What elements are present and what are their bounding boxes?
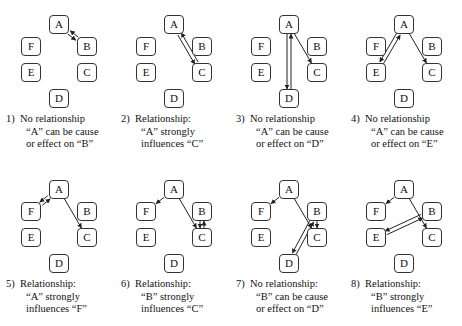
node-c: C	[192, 63, 212, 82]
panel-caption: 1)No relationship“A” can be causeor effe…	[6, 113, 121, 151]
node-a: A	[49, 15, 69, 34]
node-f: F	[251, 202, 271, 221]
diagram-panel-6: ABCDEF6)Relationship:“B” stronglyinfluen…	[115, 165, 230, 325]
node-a: A	[394, 15, 414, 34]
node-c: C	[307, 228, 327, 247]
node-d: D	[164, 89, 184, 108]
node-f: F	[21, 37, 41, 56]
node-a: A	[49, 180, 69, 199]
node-e: E	[136, 228, 156, 247]
node-d: D	[279, 254, 299, 273]
caption-title: Relationship:	[365, 278, 421, 289]
node-d: D	[394, 89, 414, 108]
arrow-a-f	[40, 196, 48, 202]
node-e: E	[366, 63, 386, 82]
node-e: E	[251, 228, 271, 247]
arrow-e-b	[387, 218, 423, 235]
node-d: D	[164, 254, 184, 273]
node-e: E	[136, 63, 156, 82]
diagram-panel-3: ABCDEF3)No relationship“A” can be causeo…	[230, 0, 345, 160]
caption-number: 1)	[6, 113, 20, 126]
diagram-panel-4: ABCDEF4)No relationship“A” can be causeo…	[345, 0, 460, 160]
node-f: F	[136, 37, 156, 56]
node-c: C	[307, 63, 327, 82]
panel-caption: 2)Relationship:“A” stronglyinfluences “C…	[121, 113, 236, 151]
node-e: E	[366, 228, 386, 247]
node-b: B	[192, 202, 212, 221]
arrow-b-e	[385, 214, 421, 231]
arrow-a-f	[271, 197, 279, 203]
node-b: B	[77, 202, 97, 221]
node-c: C	[77, 228, 97, 247]
caption-line: “A” strongly	[121, 126, 236, 139]
panel-caption: 5)Relationship:“A” stronglyinfluences “F…	[6, 278, 121, 316]
panel-caption: 6)Relationship:“B” stronglyinfluences “C…	[121, 278, 236, 316]
node-f: F	[366, 37, 386, 56]
node-f: F	[21, 202, 41, 221]
node-c: C	[422, 63, 442, 82]
caption-line: “A” can be cause	[6, 126, 121, 139]
caption-title: No relationship	[20, 113, 85, 124]
caption-title: No relationship	[365, 113, 430, 124]
caption-line: influences “E”	[351, 303, 462, 316]
caption-line: influences “C”	[121, 303, 236, 316]
caption-title: Relationship:	[20, 278, 76, 289]
caption-line: or effect on “E”	[351, 138, 462, 151]
node-c: C	[422, 228, 442, 247]
node-f: F	[251, 37, 271, 56]
diagram-panel-5: ABCDEF5)Relationship:“A” stronglyinfluen…	[0, 165, 115, 325]
node-a: A	[394, 180, 414, 199]
node-b: B	[422, 37, 442, 56]
arrow-a-f	[156, 197, 164, 203]
arrow-f-a	[42, 199, 50, 205]
caption-number: 4)	[351, 113, 365, 126]
diagram-panel-8: ABCDEF8)Relationship:“B” stronglyinfluen…	[345, 165, 460, 325]
arrow-a-f	[386, 197, 394, 203]
node-d: D	[394, 254, 414, 273]
node-f: F	[366, 202, 386, 221]
caption-line: or effect on “D”	[236, 303, 351, 316]
caption-title: Relationship:	[135, 278, 191, 289]
node-a: A	[164, 15, 184, 34]
node-e: E	[21, 63, 41, 82]
caption-line: “B” strongly	[351, 291, 462, 304]
caption-number: 5)	[6, 278, 20, 291]
caption-line: or effect on “B”	[6, 138, 121, 151]
node-c: C	[77, 63, 97, 82]
node-e: E	[251, 63, 271, 82]
caption-title: No relationship	[250, 113, 315, 124]
caption-number: 3)	[236, 113, 250, 126]
node-b: B	[192, 37, 212, 56]
panel-caption: 4)No relationship“A” can be causeor effe…	[351, 113, 462, 151]
node-b: B	[77, 37, 97, 56]
node-d: D	[279, 89, 299, 108]
panel-caption: 3)No relationship“A” can be causeor effe…	[236, 113, 351, 151]
diagram-panel-1: ABCDEF1)No relationship“A” can be causeo…	[0, 0, 115, 160]
node-b: B	[422, 202, 442, 221]
node-a: A	[279, 15, 299, 34]
caption-line: “A” can be cause	[236, 126, 351, 139]
caption-line: influences “F”	[6, 303, 121, 316]
caption-number: 8)	[351, 278, 365, 291]
caption-title: Relationship:	[135, 113, 191, 124]
caption-line: “A” strongly	[6, 291, 121, 304]
caption-number: 2)	[121, 113, 135, 126]
diagram-panel-7: ABCDEF7)No relationship:“B” can be cause…	[230, 165, 345, 325]
caption-number: 7)	[236, 278, 250, 291]
node-f: F	[136, 202, 156, 221]
panel-caption: 8)Relationship:“B” stronglyinfluences “E…	[351, 278, 462, 316]
node-c: C	[192, 228, 212, 247]
node-a: A	[279, 180, 299, 199]
caption-line: “B” can be cause	[236, 291, 351, 304]
arrow-a-b	[68, 34, 76, 40]
panel-caption: 7)No relationship:“B” can be causeor eff…	[236, 278, 351, 316]
caption-title: No relationship:	[250, 278, 318, 289]
caption-number: 6)	[121, 278, 135, 291]
diagram-panel-2: ABCDEF2)Relationship:“A” stronglyinfluen…	[115, 0, 230, 160]
caption-line: “B” strongly	[121, 291, 236, 304]
node-b: B	[307, 202, 327, 221]
node-d: D	[49, 89, 69, 108]
node-d: D	[49, 254, 69, 273]
arrow-b-a	[70, 31, 78, 37]
caption-line: or effect on “D”	[236, 138, 351, 151]
